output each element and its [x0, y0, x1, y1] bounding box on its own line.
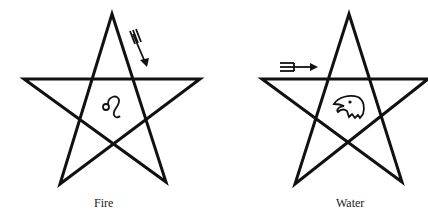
water-label: Water [336, 196, 364, 211]
fire-pentagram [24, 14, 200, 184]
eagle-head-icon [334, 96, 364, 118]
diagram-graphics [0, 0, 428, 217]
leo-sign-icon [103, 97, 120, 118]
water-pentagram [262, 14, 428, 184]
water-trident-arrow-icon [280, 63, 318, 71]
pentagram-diagram: Fire Water [0, 0, 428, 217]
fire-trident-arrow-icon [130, 29, 149, 67]
fire-label: Fire [94, 196, 113, 211]
